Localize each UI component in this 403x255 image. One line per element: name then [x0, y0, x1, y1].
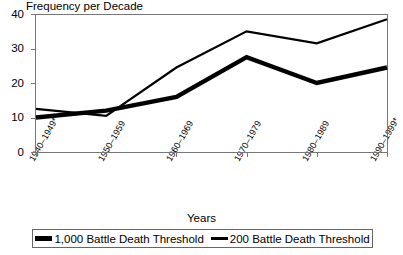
chart-legend: 1,000 Battle Death Threshold200 Battle D…	[32, 229, 373, 248]
x-axis-title: Years	[0, 212, 403, 224]
legend-item-label: 1,000 Battle Death Threshold	[54, 233, 203, 245]
axis-frame	[36, 15, 388, 153]
legend-line-swatch-icon	[35, 236, 52, 241]
series-line-1000-battle-death-threshold	[36, 57, 387, 117]
legend-item: 200 Battle Death Threshold	[211, 233, 370, 245]
legend-line-swatch-icon	[211, 237, 228, 240]
legend-item-label: 200 Battle Death Threshold	[230, 233, 370, 245]
plot-frame-rect	[36, 15, 388, 153]
frequency-per-decade-chart: Frequency per Decade 403020100 1940–1949…	[0, 0, 403, 255]
legend-item: 1,000 Battle Death Threshold	[35, 233, 203, 245]
series-line-200-battle-death-threshold	[36, 19, 387, 116]
